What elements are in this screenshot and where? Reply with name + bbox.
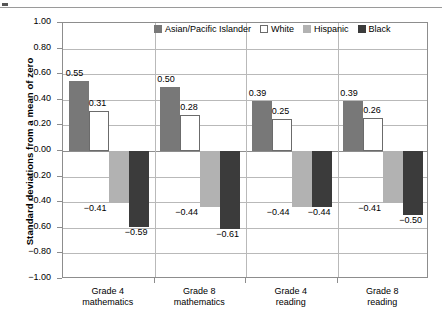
bar-value-label: −0.59 bbox=[125, 227, 148, 237]
bar[interactable] bbox=[383, 151, 403, 203]
bar-value-label: −0.41 bbox=[84, 203, 107, 213]
y-axis-tick-label: −0.80 bbox=[11, 246, 51, 256]
y-axis-tick-label: −0.60 bbox=[11, 221, 51, 231]
x-axis-category-label-line: Grade 8 bbox=[337, 286, 429, 297]
legend-item[interactable]: Hispanic bbox=[303, 24, 349, 34]
legend-swatch-icon bbox=[260, 25, 268, 33]
bar[interactable] bbox=[312, 151, 332, 207]
y-axis-tick-mark bbox=[57, 73, 62, 74]
category-separator bbox=[338, 23, 339, 277]
category-separator bbox=[155, 23, 156, 277]
x-axis-category-label-line: mathematics bbox=[62, 297, 154, 308]
legend-swatch-icon bbox=[358, 25, 366, 33]
gridline bbox=[63, 74, 427, 75]
y-axis-tick-label: 0.20 bbox=[11, 118, 51, 128]
legend-item[interactable]: White bbox=[260, 24, 294, 34]
bar[interactable] bbox=[252, 101, 272, 151]
y-axis-tick-mark bbox=[57, 48, 62, 49]
y-axis-tick-label: 0.00 bbox=[11, 144, 51, 154]
y-axis-tick-mark bbox=[57, 176, 62, 177]
bar[interactable] bbox=[292, 151, 312, 207]
x-axis-category-label-line: Grade 4 bbox=[245, 286, 337, 297]
bar-value-label: −0.44 bbox=[267, 207, 290, 217]
bar[interactable] bbox=[89, 111, 109, 151]
bar-value-label: 0.31 bbox=[89, 98, 107, 108]
legend-label: Hispanic bbox=[314, 24, 349, 34]
x-axis-category-label-line: Grade 8 bbox=[154, 286, 246, 297]
bar[interactable] bbox=[160, 87, 180, 151]
bar[interactable] bbox=[363, 118, 383, 151]
bar[interactable] bbox=[69, 81, 89, 151]
x-axis-category-label-line: Grade 4 bbox=[62, 286, 154, 297]
bar-value-label: −0.61 bbox=[216, 229, 239, 239]
y-axis-tick-label: 1.00 bbox=[11, 16, 51, 26]
bar[interactable] bbox=[272, 119, 292, 151]
grouped-bar-chart: Standard deviations from a mean of zero … bbox=[0, 0, 442, 319]
category-separator bbox=[246, 23, 247, 277]
x-axis-category-label-line: reading bbox=[337, 297, 429, 308]
y-axis-tick-mark bbox=[57, 22, 62, 23]
bar-value-label: 0.55 bbox=[66, 68, 84, 78]
bar-value-label: 0.39 bbox=[249, 88, 267, 98]
x-axis-category-label: Grade 4reading bbox=[245, 286, 337, 308]
x-axis-tick-mark bbox=[245, 278, 246, 283]
bar[interactable] bbox=[343, 101, 363, 151]
bar[interactable] bbox=[220, 151, 240, 229]
legend-label: White bbox=[271, 24, 294, 34]
x-axis-category-label: Grade 8mathematics bbox=[154, 286, 246, 308]
y-axis-tick-mark bbox=[57, 124, 62, 125]
chart-legend: Asian/Pacific IslanderWhiteHispanicBlack bbox=[150, 21, 395, 37]
bar[interactable] bbox=[200, 151, 220, 207]
x-axis-tick-mark bbox=[337, 278, 338, 283]
y-axis-tick-mark bbox=[57, 201, 62, 202]
gridline bbox=[63, 253, 427, 254]
bar-value-label: 0.25 bbox=[272, 106, 290, 116]
y-axis-tick-mark bbox=[57, 150, 62, 151]
y-axis-tick-mark bbox=[57, 99, 62, 100]
legend-item[interactable]: Asian/Pacific Islander bbox=[154, 24, 251, 34]
y-axis-tick-label: 0.60 bbox=[11, 67, 51, 77]
legend-swatch-icon bbox=[303, 25, 311, 33]
y-axis-tick-mark bbox=[57, 278, 62, 279]
bar-value-label: 0.26 bbox=[363, 105, 381, 115]
y-axis-tick-label: −0.40 bbox=[11, 195, 51, 205]
y-axis-tick-mark bbox=[57, 227, 62, 228]
y-axis-tick-label: 0.40 bbox=[11, 93, 51, 103]
bar-value-label: −0.50 bbox=[399, 215, 422, 225]
y-axis-tick-label: −1.00 bbox=[11, 272, 51, 282]
y-axis-tick-label: 0.80 bbox=[11, 42, 51, 52]
x-axis-category-label-line: mathematics bbox=[154, 297, 246, 308]
legend-item[interactable]: Black bbox=[358, 24, 391, 34]
y-axis-tick-mark bbox=[57, 252, 62, 253]
gridline bbox=[63, 49, 427, 50]
bar-value-label: −0.41 bbox=[358, 203, 381, 213]
bar-value-label: −0.44 bbox=[308, 207, 331, 217]
legend-swatch-icon bbox=[154, 25, 162, 33]
bar-value-label: 0.28 bbox=[180, 102, 198, 112]
gridline bbox=[63, 100, 427, 101]
x-axis-category-label: Grade 4mathematics bbox=[62, 286, 154, 308]
gridline bbox=[63, 228, 427, 229]
x-axis-category-label-line: reading bbox=[245, 297, 337, 308]
bar[interactable] bbox=[180, 115, 200, 151]
x-axis-category-label: Grade 8reading bbox=[337, 286, 429, 308]
plot-area bbox=[62, 22, 428, 278]
bar-value-label: 0.50 bbox=[157, 74, 175, 84]
bar-value-label: 0.39 bbox=[340, 88, 358, 98]
legend-label: Asian/Pacific Islander bbox=[165, 24, 251, 34]
legend-label: Black bbox=[369, 24, 391, 34]
bar-value-label: −0.44 bbox=[175, 207, 198, 217]
y-axis-tick-label: −0.20 bbox=[11, 170, 51, 180]
bar[interactable] bbox=[109, 151, 129, 203]
bar[interactable] bbox=[129, 151, 149, 227]
x-axis-tick-mark bbox=[154, 278, 155, 283]
bar[interactable] bbox=[403, 151, 423, 215]
